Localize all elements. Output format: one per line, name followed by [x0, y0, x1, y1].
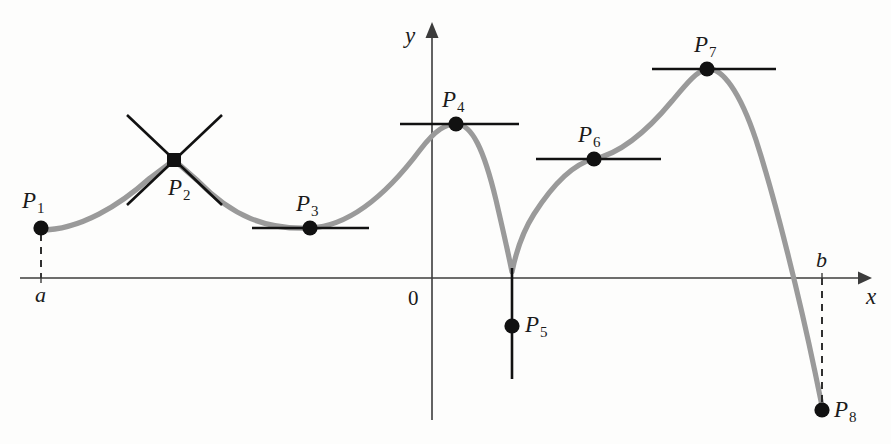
point-label-p3: P3: [296, 192, 318, 215]
tangent-lines: [127, 69, 776, 379]
point-label-letter: P: [694, 32, 708, 57]
point-marker-p8: [814, 402, 829, 417]
y-axis-label: y: [405, 24, 415, 47]
point-label-letter: P: [578, 122, 592, 147]
point-label-subscript: 6: [593, 134, 601, 150]
point-marker-p1: [33, 220, 48, 235]
point-marker-p5: [504, 318, 519, 333]
point-marker-p4: [448, 116, 463, 131]
point-label-letter: P: [168, 175, 182, 200]
point-label-letter: P: [525, 312, 539, 337]
point-label-letter: P: [296, 191, 310, 216]
point-label-p5: P5: [525, 313, 547, 336]
point-label-p8: P8: [834, 398, 856, 421]
point-label-p2: P2: [168, 176, 190, 199]
point-marker-p6: [586, 151, 601, 166]
point-label-subscript: 4: [457, 99, 465, 115]
x-axis-label: x: [866, 285, 876, 308]
figure-canvas: y x 0 a b P1P2P3P4P5P6P7P8: [0, 0, 891, 444]
figure-svg: [0, 0, 891, 444]
point-label-letter: P: [22, 188, 36, 213]
endpoint-a-label: a: [35, 284, 46, 306]
point-marker-p7: [699, 61, 714, 76]
point-label-subscript: 2: [183, 187, 191, 203]
point-label-subscript: 3: [311, 203, 319, 219]
point-label-p6: P6: [578, 123, 600, 146]
point-label-subscript: 8: [849, 409, 857, 425]
point-label-p1: P1: [22, 189, 44, 212]
x-axis-arrowhead: [858, 272, 872, 285]
point-marker-p2: [167, 153, 181, 167]
point-label-subscript: 5: [540, 324, 548, 340]
y-axis-arrowhead: [426, 22, 439, 38]
point-label-p4: P4: [442, 88, 464, 111]
point-label-subscript: 1: [37, 200, 45, 216]
point-label-letter: P: [442, 87, 456, 112]
point-label-p7: P7: [694, 33, 716, 56]
endpoint-b-label: b: [816, 249, 827, 271]
point-label-subscript: 7: [709, 44, 717, 60]
origin-label: 0: [408, 288, 419, 309]
point-marker-p3: [302, 220, 317, 235]
point-label-letter: P: [834, 397, 848, 422]
